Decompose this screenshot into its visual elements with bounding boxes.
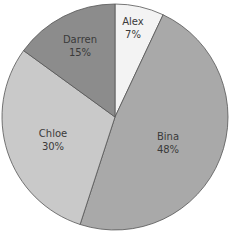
slice-label-chloe: Chloe: [39, 128, 67, 139]
slice-value-chloe: 30%: [42, 141, 64, 152]
slice-value-alex: 7%: [125, 29, 141, 40]
slice-label-bina: Bina: [157, 131, 179, 142]
pie-chart: Alex 7% Bina 48% Chloe 30% Darren 15%: [0, 0, 232, 239]
slice-value-darren: 15%: [69, 47, 91, 58]
slice-value-bina: 48%: [157, 144, 179, 155]
slice-label-darren: Darren: [63, 34, 97, 45]
slice-label-alex: Alex: [122, 16, 144, 27]
